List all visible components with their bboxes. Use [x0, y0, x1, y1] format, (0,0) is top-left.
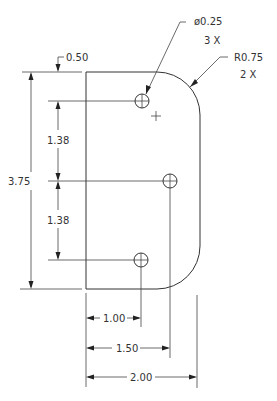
- dim-top-offset: 0.50: [66, 52, 88, 63]
- hole-bottom: [134, 253, 148, 267]
- dim-overall-height: 3.75: [8, 176, 30, 187]
- dim-hole-spacing-lower: 1.38: [47, 215, 69, 226]
- hole-middle: [163, 174, 177, 188]
- radius-callout-label: R0.75: [234, 52, 263, 63]
- part-drawing: 3.75 1.38 1.38 0.50 ø0.25 3 X R0.75 2 X …: [0, 0, 277, 401]
- hole-top: [135, 94, 149, 108]
- dim-hole-x-2: 1.50: [116, 343, 138, 354]
- dim-hole-spacing-upper: 1.38: [47, 135, 69, 146]
- hole-callout-label: ø0.25: [194, 16, 222, 27]
- dim-overall-width: 2.00: [130, 372, 152, 383]
- dim-hole-x-1: 1.00: [103, 313, 125, 324]
- part-outline: [86, 72, 200, 289]
- hole-callout-qty: 3 X: [204, 35, 221, 46]
- radius-callout-qty: 2 X: [240, 69, 257, 80]
- center-mark-icon: [151, 111, 161, 121]
